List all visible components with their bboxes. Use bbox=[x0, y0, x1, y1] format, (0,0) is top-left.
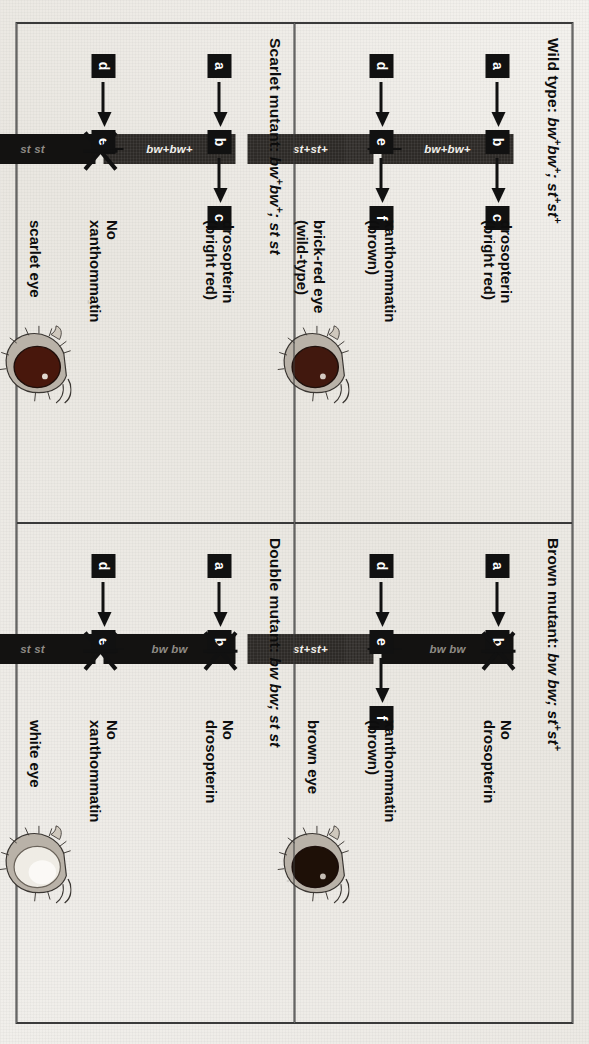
pathway-arrow-1 bbox=[207, 78, 231, 130]
product-label-xanthommatin: xanthommatin (brown) bbox=[363, 720, 397, 823]
pathway-arrow-4 bbox=[369, 654, 393, 706]
product-label-no-xanthommatin: No xanthommatin bbox=[85, 720, 119, 823]
pathway-node-d[interactable]: d bbox=[91, 54, 115, 78]
panel-title-prefix: Brown mutant: bbox=[544, 538, 561, 653]
pathway-row-drosopterin-wildtype: a b c bbox=[485, 54, 509, 230]
pathway-arrow-2 bbox=[485, 154, 509, 206]
product-label-no-drosopterin: No drosopterin bbox=[201, 720, 235, 803]
product-label-no-xanthommatin: No xanthommatin bbox=[85, 220, 119, 323]
pathway-node-d[interactable]: d bbox=[369, 54, 393, 78]
product-label-drosopterin: drosopterin (bright red) bbox=[479, 220, 513, 303]
pathway-arrow-3 bbox=[369, 78, 393, 130]
pathway-node-a[interactable]: a bbox=[485, 54, 509, 78]
gene-bar-label: bw+bw+ bbox=[146, 143, 193, 155]
pathway-block-x-icon bbox=[197, 628, 243, 674]
panel-title-wild-type: Wild type: bw+bw+; st+st+ bbox=[543, 38, 561, 508]
panel-double-mutant: Double mutant: bw bw; st st bw bw a b No… bbox=[16, 523, 294, 1023]
pathway-arrow-3 bbox=[91, 78, 115, 130]
panel-title-double-mutant: Double mutant: bw bw; st st bbox=[265, 538, 283, 1008]
panel-title-prefix: Double mutant: bbox=[266, 538, 283, 657]
pathway-block-x-icon bbox=[77, 128, 123, 174]
panel-title-brown-mutant: Brown mutant: bw bw; st+st+ bbox=[543, 538, 561, 1008]
phenotype-label-white: white eye bbox=[26, 720, 43, 788]
gene-bar-label: st+st+ bbox=[292, 143, 327, 155]
gene-bar-label: st st bbox=[20, 143, 45, 155]
pathway-arrow-1 bbox=[485, 78, 509, 130]
panel-title-prefix: Scarlet mutant: bbox=[266, 38, 283, 157]
pathway-node-e[interactable]: e bbox=[369, 130, 393, 154]
fly-head-icon bbox=[0, 324, 71, 410]
pathway-arrow-1 bbox=[485, 578, 509, 630]
scanned-page: Wild type: bw+bw+; st+st+ bw+bw+ a b c d… bbox=[0, 0, 589, 1044]
pathway-node-a[interactable]: a bbox=[485, 554, 509, 578]
panel-title-scarlet-mutant: Scarlet mutant: bw+bw+; st st bbox=[265, 38, 283, 508]
gene-bar-label: st+st+ bbox=[292, 643, 327, 655]
phenotype-label-wild-type: brick-red eye (wild-type) bbox=[293, 220, 327, 313]
product-label-drosopterin: drosopterin (bright red) bbox=[201, 220, 235, 303]
product-label-xanthommatin: xanthommatin (brown) bbox=[363, 220, 397, 323]
pathway-arrow-4 bbox=[369, 154, 393, 206]
gene-bar-label: bw bw bbox=[429, 643, 465, 655]
pathway-arrow-2 bbox=[207, 154, 231, 206]
pathway-node-b[interactable]: b bbox=[207, 130, 231, 154]
pathway-arrow-3 bbox=[91, 578, 115, 630]
panel-scarlet-mutant: Scarlet mutant: bw+bw+; st st bw+bw+ a b… bbox=[16, 23, 294, 523]
phenotype-label-brown: brown eye bbox=[304, 720, 321, 794]
pathway-arrow-3 bbox=[369, 578, 393, 630]
pathway-row-xanthommatin-wildtype: d e f bbox=[369, 54, 393, 230]
pathway-block-x-icon bbox=[77, 628, 123, 674]
pathway-node-d[interactable]: d bbox=[91, 554, 115, 578]
panel-wild-type: Wild type: bw+bw+; st+st+ bw+bw+ a b c d… bbox=[294, 23, 572, 523]
pathway-block-x-icon bbox=[475, 628, 521, 674]
phenotype-label-scarlet: scarlet eye bbox=[26, 220, 43, 298]
pathway-node-a[interactable]: a bbox=[207, 54, 231, 78]
panel-title-prefix: Wild type: bbox=[544, 38, 561, 117]
pathway-node-d[interactable]: d bbox=[369, 554, 393, 578]
pathway-row-drosopterin-scarletmutant: a b c bbox=[207, 54, 231, 230]
figure-panel-grid: Wild type: bw+bw+; st+st+ bw+bw+ a b c d… bbox=[15, 22, 573, 1024]
gene-bar-label: st st bbox=[20, 643, 45, 655]
gene-bar-label: bw bw bbox=[151, 643, 187, 655]
pathway-row-xanthommatin-brownmutant: d e f bbox=[369, 554, 393, 730]
product-label-no-drosopterin: No drosopterin bbox=[479, 720, 513, 803]
pathway-node-b[interactable]: b bbox=[485, 130, 509, 154]
pathway-node-e[interactable]: e bbox=[369, 630, 393, 654]
pathway-arrow-1 bbox=[207, 578, 231, 630]
gene-bar-label: bw+bw+ bbox=[424, 143, 471, 155]
panel-brown-mutant: Brown mutant: bw bw; st+st+ bw bw a b No… bbox=[294, 523, 572, 1023]
pathway-node-a[interactable]: a bbox=[207, 554, 231, 578]
fly-head-icon bbox=[0, 824, 71, 910]
